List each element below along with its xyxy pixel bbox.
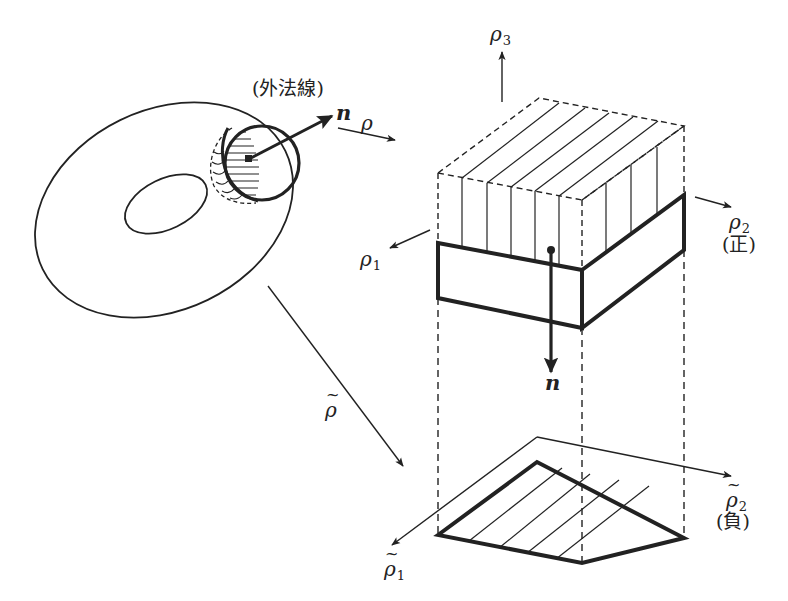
box xyxy=(390,52,731,563)
neighborhood-circle xyxy=(225,126,299,200)
rho-tilde-map-label: ρ xyxy=(325,400,337,420)
rho2-tilde-axis xyxy=(537,437,731,476)
rho1-symbol: ρ xyxy=(360,247,372,271)
projected-square xyxy=(392,437,731,563)
torus-hole xyxy=(115,162,216,246)
rho2-label: ρ2 xyxy=(729,212,750,235)
rho2-symbol: ρ xyxy=(729,210,741,234)
rho1-tilde-subscript: 1 xyxy=(397,568,405,583)
rho3-symbol: ρ xyxy=(490,22,502,46)
rho3-subscript: 3 xyxy=(503,33,511,48)
diagram-svg xyxy=(0,0,788,601)
rho2-tilde-negative-label: (負) xyxy=(716,512,750,531)
rho1-tilde-axis xyxy=(392,437,537,545)
rho1-tilde-label: ρ1 xyxy=(384,559,405,582)
rho2-tilde-symbol: ρ xyxy=(726,490,738,510)
rho-tilde-glyph: ρ xyxy=(325,400,337,420)
rho1-subscript: 1 xyxy=(373,258,381,273)
outward-normal-label: (外法線) xyxy=(252,79,324,98)
rho1-label: ρ1 xyxy=(360,249,381,272)
diagram-canvas: (外法線) n ρ ρ ρ3 ρ1 ρ2 (正) n ρ1 ρ2 (負) xyxy=(0,0,788,601)
rho1-axis-arrow xyxy=(390,230,430,248)
torus-outer xyxy=(0,61,329,359)
torus xyxy=(0,61,329,359)
rho3-label: ρ3 xyxy=(490,24,511,47)
n-torus-label: n xyxy=(336,102,351,123)
rho2-axis-arrow xyxy=(695,197,731,207)
rho-tilde-map-arrow xyxy=(268,286,403,466)
rho-map-label: ρ xyxy=(361,113,373,133)
rho2-positive-label: (正) xyxy=(722,235,756,254)
rho1-tilde-symbol: ρ xyxy=(384,559,396,579)
n-box-label: n xyxy=(545,372,560,393)
